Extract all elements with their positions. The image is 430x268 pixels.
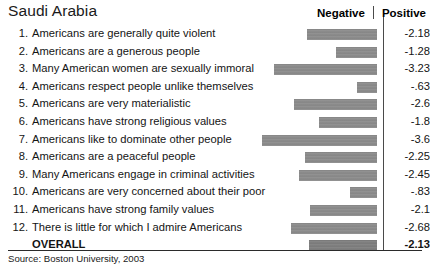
value-bar [336, 47, 377, 58]
row-number: 6. [6, 115, 28, 127]
value-bar [294, 99, 377, 110]
row-label: Americans are very concerned about their… [32, 185, 265, 197]
table-row: 2.Americans are a generous people-1.28 [0, 44, 430, 62]
table-row: 12.There is little for which I admire Am… [0, 220, 430, 238]
chart-container: Saudi Arabia Negative Positive 1.America… [0, 0, 430, 268]
chart-rows: 1.Americans are generally quite violent-… [0, 26, 430, 255]
row-number: 2. [6, 45, 28, 57]
value-bar [310, 205, 377, 216]
table-row: 8.Americans are a peaceful people-2.25 [0, 149, 430, 167]
row-label: Americans are a peaceful people [32, 150, 196, 162]
value-bar [262, 135, 377, 146]
row-number: 10. [6, 185, 28, 197]
value-bar [274, 64, 377, 75]
row-number: 5. [6, 97, 28, 109]
value-bar [299, 170, 377, 181]
row-number: 1. [6, 27, 28, 39]
legend-negative-label: Negative [317, 7, 365, 19]
row-label: There is little for which I admire Ameri… [32, 221, 242, 233]
value-bar [307, 29, 377, 40]
page-title: Saudi Arabia [8, 2, 97, 20]
table-row: 4.Americans respect people unlike themse… [0, 79, 430, 97]
table-row: 6.Americans have strong religious values… [0, 114, 430, 132]
table-row: 5.Americans are very materialistic-2.6 [0, 96, 430, 114]
value-bar [350, 187, 377, 198]
value-bar [357, 82, 377, 93]
row-label: Americans have strong religious values [32, 115, 227, 127]
table-row: 3.Many American women are sexually immor… [0, 61, 430, 79]
source-note: Source: Boston University, 2003 [8, 253, 144, 264]
table-row: 7.Americans like to dominate other peopl… [0, 132, 430, 150]
row-label: Americans have strong family values [32, 203, 214, 215]
row-number: 4. [6, 80, 28, 92]
row-label: Americans are generally quite violent [32, 27, 215, 39]
row-label: Many Americans engage in criminal activi… [32, 168, 255, 180]
axis-legend: Negative Positive [317, 4, 426, 19]
row-number: 3. [6, 62, 28, 74]
row-number: 11. [6, 203, 28, 215]
row-number: 7. [6, 133, 28, 145]
row-label: Many American women are sexually immoral [32, 62, 254, 74]
value-bar [291, 223, 377, 234]
legend-divider [373, 6, 374, 19]
row-label: Americans like to dominate other people [32, 133, 232, 145]
value-bar [305, 152, 377, 163]
row-label: Americans are a generous people [32, 45, 200, 57]
zero-axis-divider [383, 17, 384, 251]
table-row: 10.Americans are very concerned about th… [0, 184, 430, 202]
footer-divider [8, 250, 422, 251]
value-bar [319, 117, 377, 128]
row-label: Americans respect people unlike themselv… [32, 80, 253, 92]
table-row: 11.Americans have strong family values-2… [0, 202, 430, 220]
table-row: 1.Americans are generally quite violent-… [0, 26, 430, 44]
row-label: Americans are very materialistic [32, 97, 191, 109]
table-row: 9.Many Americans engage in criminal acti… [0, 167, 430, 185]
row-number: 8. [6, 150, 28, 162]
row-number: 12. [6, 221, 28, 233]
row-label: OVERALL [32, 238, 85, 250]
legend-positive-label: Positive [382, 7, 426, 19]
row-number: 9. [6, 168, 28, 180]
